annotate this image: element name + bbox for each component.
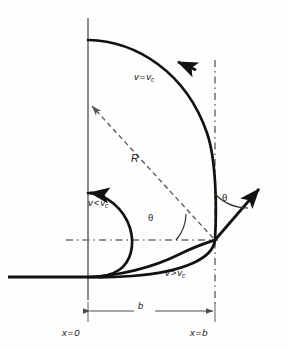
label-v-less-than-vc: v<vc — [88, 197, 108, 209]
label-x-equals-0-value: 0 — [74, 327, 79, 338]
label-x-equals-b: x=b — [190, 327, 208, 338]
label-angle-theta-outer: θ — [222, 192, 227, 203]
label-radius-R: R — [131, 152, 139, 164]
label-v-less-than-vc-subscript: c — [105, 202, 108, 209]
curve-v-equals-vc — [88, 40, 216, 240]
label-distance-b: b — [138, 300, 143, 311]
label-v-greater-than-vc: v>vc — [165, 267, 185, 279]
label-x-equals-0: x=0 — [62, 327, 80, 338]
label-angle-theta-inner: θ — [148, 212, 153, 223]
label-x-equals-b-value: b — [202, 327, 207, 338]
curve-v-equals-vc-direction-arrow — [178, 62, 196, 70]
curve-v-less-than-vc-direction-arrow — [90, 193, 99, 194]
label-v-equals-vc: v=vc — [134, 71, 154, 83]
angle-arc-inner — [176, 214, 186, 240]
label-v-greater-than-vc-subscript: c — [182, 272, 185, 279]
label-v-equals-vc-subscript: c — [151, 76, 154, 83]
physics-diagram: v=vc v<vc v>vc R b x=0 x=b θ θ — [0, 0, 289, 350]
diagram-canvas — [0, 0, 289, 350]
curve-v-greater-than-vc — [88, 240, 215, 277]
